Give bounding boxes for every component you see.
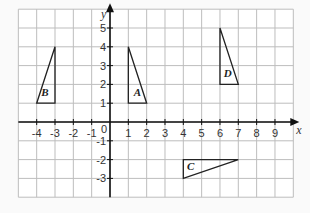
coordinate-grid: xy0-4-3-2-1123456789-3-2-112345ABCD — [0, 0, 310, 213]
triangle-label-a: A — [133, 86, 141, 98]
x-tick-label: 5 — [199, 127, 205, 139]
x-tick-label: 8 — [254, 127, 260, 139]
x-tick-label: 1 — [125, 127, 131, 139]
y-tick-label: 2 — [100, 78, 106, 90]
y-tick-label: -3 — [96, 172, 106, 184]
y-tick-label: 4 — [100, 41, 106, 53]
x-tick-label: -4 — [32, 127, 42, 139]
y-tick-label: 1 — [100, 97, 106, 109]
x-tick-label: 6 — [217, 127, 223, 139]
triangle-label-c: C — [187, 160, 195, 172]
x-tick-label: -1 — [87, 127, 97, 139]
triangle-label-b: B — [40, 86, 48, 98]
x-tick-label: 2 — [144, 127, 150, 139]
y-axis-label: y — [100, 7, 107, 21]
x-tick-label: 7 — [235, 127, 241, 139]
x-tick-label: 9 — [272, 127, 278, 139]
x-tick-label: -2 — [68, 127, 78, 139]
x-axis-label: x — [295, 123, 302, 137]
y-tick-label: 3 — [100, 60, 106, 72]
triangle-label-d: D — [223, 67, 232, 79]
x-tick-label: 3 — [162, 127, 168, 139]
x-tick-label: -3 — [50, 127, 60, 139]
y-tick-label: 5 — [100, 22, 106, 34]
origin-label: 0 — [101, 123, 107, 135]
y-tick-label: -2 — [96, 154, 106, 166]
y-tick-label: -1 — [96, 135, 106, 147]
y-axis-arrow-icon — [106, 3, 114, 12]
x-tick-label: 4 — [180, 127, 186, 139]
